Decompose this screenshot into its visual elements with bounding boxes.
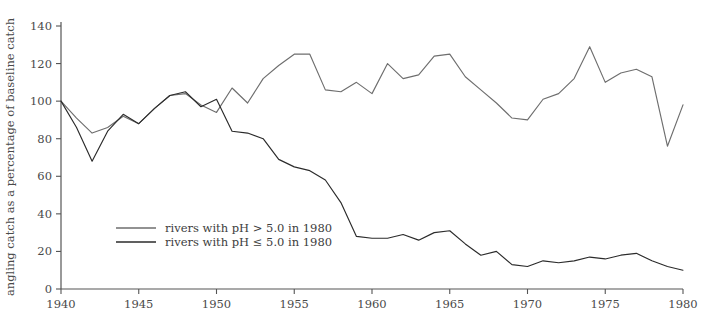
series-line-ph-at-or-below-5 (61, 92, 683, 270)
x-tick-label: 1960 (357, 297, 386, 311)
line-chart: angling catch as a percentage of baselin… (0, 0, 704, 324)
y-tick-label: 60 (37, 169, 52, 183)
axis-lines (61, 22, 683, 289)
y-tick-label: 120 (30, 57, 52, 71)
legend-label-ph-above-5: rivers with pH > 5.0 in 1980 (165, 221, 332, 235)
x-tick-label: 1980 (668, 297, 697, 311)
chart-container: angling catch as a percentage of baselin… (0, 0, 704, 324)
x-tick-label: 1950 (202, 297, 231, 311)
x-tick-label: 1945 (124, 297, 153, 311)
y-tick-label: 140 (30, 19, 52, 33)
x-tick-label: 1965 (435, 297, 464, 311)
x-tick-label: 1970 (513, 297, 542, 311)
y-axis-title-group: angling catch as a percentage of baselin… (3, 17, 17, 296)
series-line-ph-above-5 (61, 47, 683, 147)
y-tick-label: 20 (37, 244, 52, 258)
x-tick-label: 1955 (280, 297, 309, 311)
x-tick-label: 1940 (46, 297, 75, 311)
x-axis-ticks: 194019451950195519601965197019751980 (46, 289, 697, 311)
y-axis-title: angling catch as a percentage of baselin… (3, 17, 17, 296)
y-tick-label: 40 (37, 207, 52, 221)
y-tick-label: 0 (45, 282, 52, 296)
y-tick-label: 80 (37, 132, 52, 146)
y-axis-ticks: 020406080100120140 (30, 19, 61, 296)
plot-series (61, 47, 683, 271)
x-tick-label: 1975 (591, 297, 620, 311)
y-tick-label: 100 (30, 94, 52, 108)
legend: rivers with pH > 5.0 in 1980 rivers with… (116, 221, 332, 249)
legend-label-ph-at-or-below-5: rivers with pH ≤ 5.0 in 1980 (165, 235, 332, 249)
